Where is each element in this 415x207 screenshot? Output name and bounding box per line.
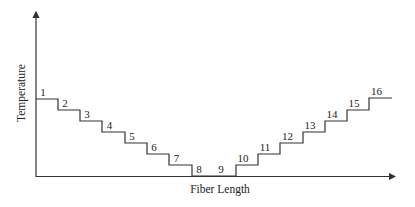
step-label: 8 xyxy=(196,163,202,175)
step-label: 4 xyxy=(107,119,113,131)
step-label: 7 xyxy=(174,152,180,164)
y-axis-label: Temperature xyxy=(15,64,28,122)
x-axis-label: Fiber Length xyxy=(190,183,250,196)
step-label: 14 xyxy=(327,108,339,120)
step-label: 1 xyxy=(40,86,46,98)
step-label: 3 xyxy=(84,108,90,120)
step-label: 5 xyxy=(129,130,135,142)
step-labels: 12345678910111213141516 xyxy=(40,85,382,175)
step-label: 6 xyxy=(151,141,157,153)
step-label: 2 xyxy=(62,97,68,109)
step-label: 9 xyxy=(218,163,224,175)
step-label: 16 xyxy=(371,85,383,97)
step-label: 13 xyxy=(305,119,317,131)
step-label: 15 xyxy=(349,97,361,109)
temperature-fiber-diagram: 12345678910111213141516 Fiber Length Tem… xyxy=(0,0,415,207)
step-label: 11 xyxy=(260,141,271,153)
step-label: 12 xyxy=(282,130,293,142)
step-label: 10 xyxy=(238,152,250,164)
